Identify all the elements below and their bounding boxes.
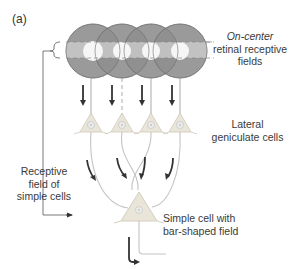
downward-arrows: [80, 85, 175, 106]
lgn-cells: [74, 113, 197, 134]
simple-cell-label: Simple cell with bar-shaped field: [163, 212, 238, 237]
lgn-axons: [91, 132, 181, 208]
receptive-field-label-line2: field of: [14, 178, 74, 191]
simple-cell-label-line1: Simple cell with: [163, 212, 238, 225]
receptive-field-label: Receptive field of simple cells: [14, 165, 74, 203]
retinal-fields-label: On-center retinal receptive fields: [205, 30, 295, 68]
retina-to-lgn-connectors: [91, 78, 180, 115]
lgn-cells-label-line1: Lateral: [200, 118, 295, 131]
retinal-receptive-fields: [66, 24, 214, 78]
lgn-cells-label-line2: geniculate cells: [200, 131, 295, 144]
retinal-fields-label-line1: On-center: [205, 30, 295, 43]
simple-cell-label-line2: bar-shaped field: [163, 225, 238, 238]
receptive-field-label-line1: Receptive: [14, 165, 74, 178]
output-arrow: [129, 237, 140, 265]
retinal-fields-label-line2: retinal receptive: [205, 43, 295, 56]
retinal-fields-label-line3: fields: [205, 55, 295, 68]
convergence-arrowheads: [90, 173, 170, 181]
convergence-arrows: [87, 157, 173, 178]
lgn-cells-label: Lateral geniculate cells: [200, 118, 295, 143]
receptive-field-label-line3: simple cells: [14, 190, 74, 203]
simple-cell: [114, 192, 166, 254]
